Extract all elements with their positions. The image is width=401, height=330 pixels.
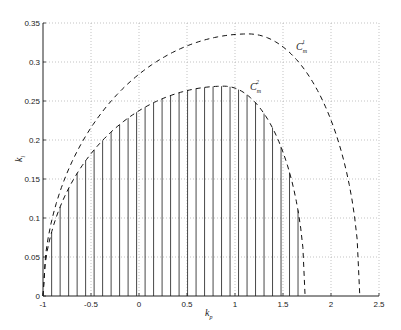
y-tick-label: 0.15 [24, 175, 40, 184]
y-tick-label: 0.35 [24, 19, 40, 28]
y-tick-label: 0.2 [29, 136, 41, 145]
y-tick-label: 0.1 [29, 214, 41, 223]
x-axis-label: kp [205, 307, 212, 320]
x-tick-label: -1 [39, 300, 47, 309]
stable-region-hatch [52, 86, 298, 296]
y-axis-label: ki [13, 156, 26, 162]
boundary-curves [43, 34, 360, 296]
curve-label-c1: Cm1 [296, 39, 308, 54]
curve-label-c2: Cm2 [250, 79, 262, 94]
x-tick-label: 0 [137, 300, 142, 309]
x-tick-label: 1.5 [277, 300, 289, 309]
y-tick-label: 0 [36, 292, 41, 301]
x-tick-label: 2 [329, 300, 334, 309]
y-tick-label: 0.05 [24, 253, 40, 262]
x-tick-label: 2.5 [373, 300, 385, 309]
x-tick-label: 0.5 [181, 300, 193, 309]
y-tick-label: 0.25 [24, 97, 40, 106]
curve-c2 [43, 86, 305, 296]
y-tick-label: 0.3 [29, 58, 41, 67]
chart: -1-0.500.511.522.500.050.10.150.20.250.3… [0, 0, 401, 330]
axes [43, 23, 379, 296]
curve-c1 [43, 34, 360, 296]
grid-lines [43, 23, 379, 296]
x-tick-label: -0.5 [84, 300, 98, 309]
x-tick-label: 1 [233, 300, 238, 309]
